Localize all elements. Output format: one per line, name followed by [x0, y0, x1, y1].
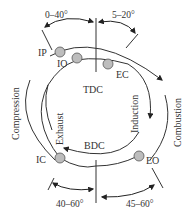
- eo-marker: [134, 151, 144, 161]
- angle-top-left: 0–40°: [45, 10, 68, 20]
- ip-marker: [55, 47, 65, 57]
- angle-arrow-bottom-left: [53, 183, 93, 190]
- angle-bottom-right: 45–60°: [126, 199, 154, 209]
- combustion-arc: [150, 95, 168, 160]
- angle-top-right: 5–20°: [112, 10, 135, 20]
- compression-arc: [26, 80, 55, 160]
- io-marker: [72, 53, 82, 63]
- ic-tick: [48, 178, 54, 190]
- exhaust-arc: [46, 85, 52, 130]
- label-io: IO: [57, 58, 68, 69]
- label-bdc: BDC: [84, 140, 105, 151]
- label-tdc: TDC: [83, 84, 103, 95]
- label-exhaust: Exhaust: [54, 113, 65, 145]
- diagram-canvas: IP IO EC IC EO TDC BDC 0–40° 5–20° 40–60…: [0, 0, 190, 219]
- label-eo: EO: [146, 155, 159, 166]
- label-ip: IP: [38, 47, 47, 58]
- label-induction: Induction: [129, 95, 140, 133]
- label-combustion: Combustion: [172, 98, 183, 147]
- label-ec: EC: [116, 69, 129, 80]
- label-ic: IC: [36, 154, 46, 165]
- angle-bottom-left: 40–60°: [56, 199, 84, 209]
- valve-timing-diagram: IP IO EC IC EO TDC BDC 0–40° 5–20° 40–60…: [0, 0, 190, 219]
- label-compression: Compression: [10, 87, 21, 140]
- angle-arrow-top-right: [99, 21, 135, 33]
- top-right-tick: [126, 34, 138, 48]
- ec-marker: [103, 59, 113, 69]
- angle-arrow-bottom-right: [102, 185, 154, 197]
- ic-marker: [55, 153, 65, 163]
